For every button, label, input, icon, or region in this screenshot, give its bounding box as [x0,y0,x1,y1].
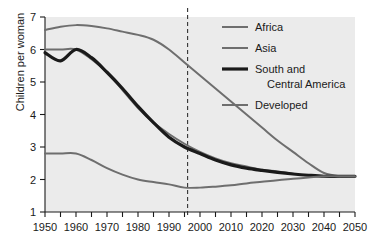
y-tick-label: 1 [30,206,36,218]
x-tick-label: 1970 [95,221,119,233]
x-tick-label: 1990 [157,221,181,233]
legend-label-cont: Central America [267,78,346,90]
x-tick-label: 1980 [126,221,150,233]
y-tick-label: 4 [30,109,36,121]
x-axis-ticks: 1950196019701980199020002010202020302040… [33,212,367,233]
x-tick-label: 1950 [33,221,57,233]
y-tick-label: 7 [30,11,36,23]
chart-figure: Children per woman 1234567 1950196019701… [0,0,372,248]
y-tick-label: 5 [30,76,36,88]
y-tick-label: 6 [30,44,36,56]
legend-label: Africa [255,21,284,33]
x-tick-label: 2010 [219,221,243,233]
x-tick-label: 2000 [188,221,212,233]
x-tick-label: 2020 [250,221,274,233]
x-tick-label: 2040 [312,221,336,233]
x-tick-label: 1960 [64,221,88,233]
x-tick-label: 2030 [281,221,305,233]
legend-label: Developed [255,99,308,111]
y-tick-label: 2 [30,174,36,186]
plot-container: 1234567 19501960197019801990200020102020… [0,0,372,248]
plot-background [45,17,355,212]
legend-label: South and [255,63,305,75]
y-axis-ticks: 1234567 [30,11,45,218]
y-tick-label: 3 [30,141,36,153]
legend-label: Asia [255,42,277,54]
x-tick-label: 2050 [343,221,367,233]
